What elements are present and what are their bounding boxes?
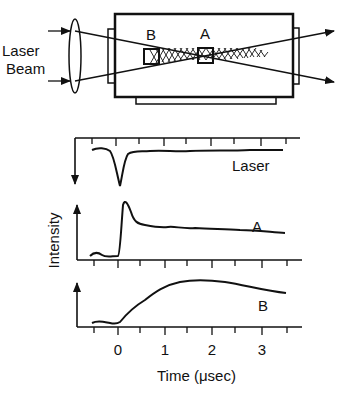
laser-beam-label-line2: Beam bbox=[6, 61, 45, 76]
b-trace-label: B bbox=[258, 298, 268, 313]
panel-a bbox=[77, 202, 302, 268]
laser-axis-ticks bbox=[92, 138, 286, 146]
y-axis-label: Intensity bbox=[45, 213, 62, 269]
laser-trace-label: Laser bbox=[232, 158, 270, 173]
a-trace-label: A bbox=[252, 219, 262, 234]
x-tick-1: 1 bbox=[161, 342, 169, 357]
a-axis-ticks bbox=[94, 260, 287, 268]
region-a-label: A bbox=[200, 26, 210, 41]
b-trace bbox=[92, 280, 286, 324]
b-axis-ticks bbox=[94, 327, 287, 335]
region-b-label: B bbox=[146, 27, 156, 42]
plasma-region-hatching bbox=[150, 48, 268, 64]
x-tick-2: 2 bbox=[208, 342, 216, 357]
x-tick-0: 0 bbox=[114, 342, 122, 357]
panel-b bbox=[77, 280, 302, 335]
figure-canvas bbox=[0, 0, 346, 395]
lens bbox=[69, 19, 81, 93]
optical-setup bbox=[48, 14, 334, 104]
x-tick-3: 3 bbox=[258, 342, 266, 357]
x-axis-label: Time (μsec) bbox=[157, 368, 236, 383]
laser-beam-label-line1: Laser bbox=[2, 43, 40, 58]
